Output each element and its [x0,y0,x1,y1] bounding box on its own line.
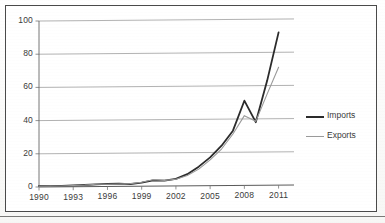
series-line-exports [39,67,279,186]
gridline [39,52,294,54]
x-axis-label: 2008 [227,190,261,200]
x-axis-label: 1993 [56,192,90,202]
line-chart-canvas [6,6,378,213]
y-axis-label: 0 [7,181,33,191]
gridline [39,152,294,154]
gridline [39,19,294,21]
x-axis-label: 2005 [193,191,227,201]
y-axis-label: 80 [7,48,33,58]
chart-screenshot: 0204060801001990199319961999200220052008… [0,0,385,223]
legend-label-imports: Imports [327,110,355,120]
x-axis-label: 1996 [90,191,124,201]
legend-swatch-exports [306,136,324,137]
chart-plot-container: 0204060801001990199319961999200220052008… [6,6,378,213]
series-line-imports [39,32,279,186]
page-bottom-rule [0,216,385,217]
x-axis-label: 2011 [262,190,296,200]
y-axis-label: 20 [7,148,33,158]
y-axis-label: 40 [7,115,33,125]
x-axis-label: 1990 [22,192,56,202]
x-axis-label: 1999 [125,191,159,201]
legend-swatch-imports [306,116,324,118]
y-axis-label: 60 [7,81,33,91]
legend-label-exports: Exports [327,130,356,140]
chart-frame: 0204060801001990199319961999200220052008… [5,5,377,212]
x-axis-label: 2002 [159,191,193,201]
gridline [39,85,294,87]
y-axis-label: 100 [7,15,33,25]
